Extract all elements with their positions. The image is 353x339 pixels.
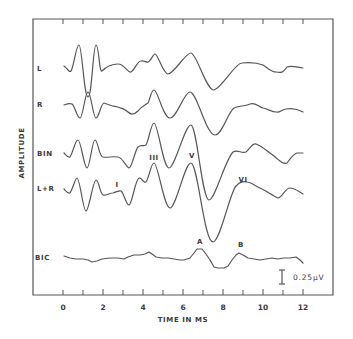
x-axis-label: TIME IN MS <box>158 316 208 324</box>
abr-waveform-chart: 0 2 4 6 8 10 12 TIME IN MS AMPLITUDE L R… <box>0 0 353 339</box>
x-tick-label: 2 <box>100 303 105 312</box>
peak-label-b: B <box>238 241 244 249</box>
trace-label-bic: BIC <box>35 254 50 262</box>
top-ticks <box>63 19 303 24</box>
peak-label-a: A <box>197 238 203 246</box>
scale-bar-label: 0.25μV <box>293 273 324 282</box>
x-tick-label: 10 <box>258 303 268 312</box>
peak-label-i: I <box>115 181 118 189</box>
peak-label-vi: VI <box>238 176 247 184</box>
trace-r <box>64 90 303 135</box>
x-tick-label: 8 <box>220 303 225 312</box>
scale-bar <box>279 270 285 284</box>
trace-l <box>64 45 303 97</box>
trace-label-r: R <box>37 101 43 109</box>
trace-bic <box>64 249 303 268</box>
x-tick-label: 6 <box>180 303 185 312</box>
x-tick-label: 4 <box>140 303 145 312</box>
x-tick-label: 12 <box>298 303 308 312</box>
bottom-ticks <box>63 289 303 295</box>
trace-label-bin: BIN <box>37 150 53 158</box>
plot-frame <box>33 19 333 295</box>
y-axis-label: AMPLITUDE <box>18 127 26 178</box>
x-tick-label: 0 <box>60 303 65 312</box>
trace-label-lr: L+R <box>37 185 55 193</box>
peak-label-v: V <box>189 152 195 160</box>
peak-label-iii: III <box>149 154 159 162</box>
trace-lr <box>64 163 303 242</box>
trace-label-l: L <box>37 65 42 73</box>
